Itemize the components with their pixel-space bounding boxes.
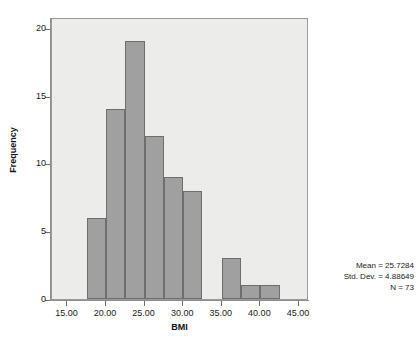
y-axis-tick-label: 0: [6, 295, 46, 304]
x-axis-tick-label: 20.00: [83, 308, 127, 318]
plot-area: [51, 18, 308, 300]
histogram-bar: [183, 191, 202, 299]
x-axis-line: [50, 300, 309, 301]
histogram-bar: [106, 109, 125, 299]
x-axis-tick-label: 25.00: [122, 308, 166, 318]
y-axis-line: [50, 18, 51, 301]
y-axis-title: Frequency: [8, 90, 18, 210]
y-axis-tick-label: 10: [6, 159, 46, 168]
histogram-bar: [241, 285, 260, 299]
x-axis-tick: [144, 301, 145, 306]
histogram-chart: Frequency BMI Mean = 25.7284 Std. Dev. =…: [0, 0, 419, 347]
x-axis-tick: [105, 301, 106, 306]
histogram-bar: [164, 177, 183, 299]
histogram-bar: [145, 136, 164, 299]
x-axis-tick-label: 30.00: [160, 308, 204, 318]
y-axis-tick-label: 15: [6, 92, 46, 101]
histogram-bar: [125, 41, 144, 299]
x-axis-tick: [221, 301, 222, 306]
x-axis-tick: [298, 301, 299, 306]
histogram-bar: [260, 285, 279, 299]
x-axis-tick-label: 45.00: [276, 308, 320, 318]
x-axis-title: BMI: [51, 322, 308, 332]
y-axis-tick-label: 5: [6, 227, 46, 236]
x-axis-tick-label: 40.00: [237, 308, 281, 318]
x-axis-tick-label: 15.00: [44, 308, 88, 318]
std-dev-value: Std. Dev. = 4.88649: [312, 271, 414, 282]
y-axis-tick-label: 20: [6, 24, 46, 33]
histogram-bar: [222, 258, 241, 299]
statistics-annotation: Mean = 25.7284 Std. Dev. = 4.88649 N = 7…: [312, 260, 414, 293]
histogram-bar: [87, 218, 106, 299]
x-axis-tick: [66, 301, 67, 306]
x-axis-tick: [182, 301, 183, 306]
x-axis-tick: [259, 301, 260, 306]
sample-size-value: N = 73: [312, 282, 414, 293]
mean-value: Mean = 25.7284: [312, 260, 414, 271]
x-axis-tick-label: 35.00: [199, 308, 243, 318]
